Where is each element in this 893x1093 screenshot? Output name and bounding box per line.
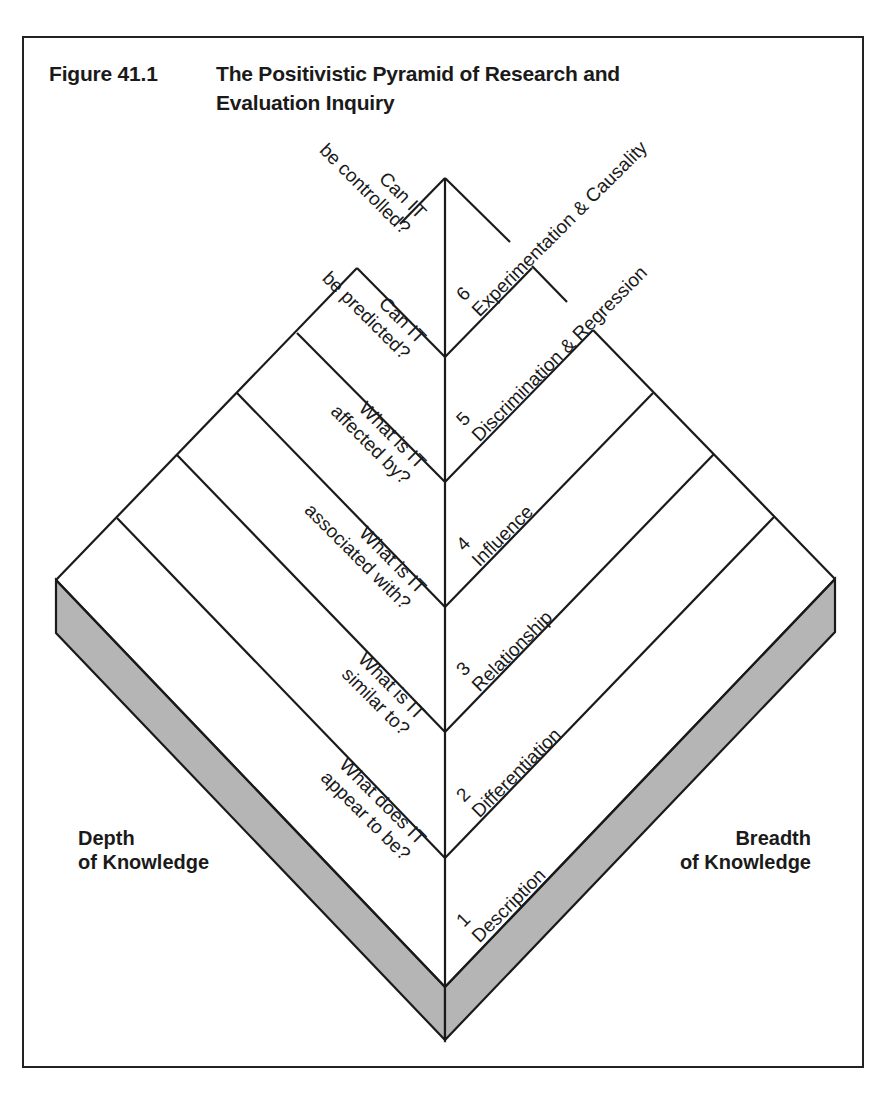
- pyramid-diagram: [0, 0, 893, 1093]
- outer-left: [56, 268, 357, 580]
- breadth-label-line2: of Knowledge: [680, 850, 811, 874]
- outer-right-seg: [532, 266, 567, 302]
- depth-label-line1: Depth: [78, 826, 209, 850]
- breadth-of-knowledge-label: Breadth of Knowledge: [680, 826, 811, 874]
- breadth-label-line1: Breadth: [680, 826, 811, 850]
- outer-right-top: [445, 178, 510, 242]
- bottom-left-edge: [56, 580, 445, 987]
- depth-of-knowledge-label: Depth of Knowledge: [78, 826, 209, 874]
- depth-label-line2: of Knowledge: [78, 850, 209, 874]
